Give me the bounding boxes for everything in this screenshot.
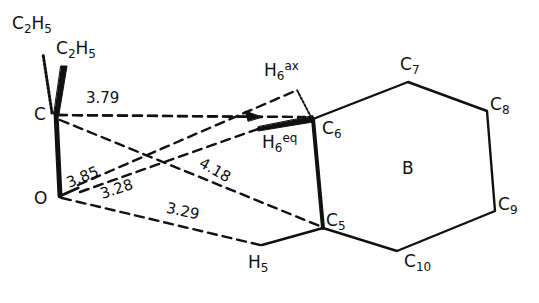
bond-c-o — [56, 113, 60, 196]
label-c9: C9 — [498, 196, 518, 216]
text: H — [262, 132, 275, 152]
text: C — [400, 54, 412, 74]
label-c: C — [34, 106, 46, 123]
label-c5: C5 — [326, 212, 346, 232]
bond-c5-h5 — [262, 228, 323, 245]
label-h5: H5 — [248, 254, 268, 274]
label-ethyl-bold: C2H5 — [56, 40, 96, 60]
text: 5 — [338, 219, 346, 233]
text: 5 — [261, 261, 269, 275]
bond-c6-h6eq-wedge — [258, 116, 313, 131]
text: C — [326, 210, 338, 230]
text: 5 — [44, 22, 52, 36]
ring-label-b: B — [402, 160, 414, 177]
distance-label-3-79: 3.79 — [86, 91, 119, 106]
label-h6ax: H6ax — [264, 60, 299, 82]
dist-line-o-h5 — [62, 198, 260, 245]
label-c8: C8 — [490, 96, 510, 116]
text: C — [56, 38, 68, 58]
text: 7 — [412, 63, 420, 77]
label-c10: C10 — [404, 253, 431, 273]
bond-c6-h6ax-hashed — [297, 90, 311, 117]
text: C — [498, 194, 510, 214]
label-c7: C7 — [400, 56, 420, 76]
text: 2 — [24, 22, 32, 36]
text: 5 — [88, 47, 96, 61]
label-o: O — [34, 190, 47, 207]
text: H — [32, 13, 45, 33]
text: 10 — [416, 260, 431, 274]
text: H — [264, 60, 277, 80]
text: C — [322, 118, 334, 138]
text: C — [490, 94, 502, 114]
text: ax — [284, 59, 298, 73]
label-c6: C6 — [322, 120, 342, 140]
text: 6 — [334, 127, 342, 141]
text: eq — [282, 131, 297, 145]
text: C — [12, 13, 24, 33]
arrowhead — [245, 111, 262, 121]
text: H — [248, 252, 261, 272]
text: C — [404, 251, 416, 271]
dist-line-c-c6 — [58, 115, 305, 117]
label-h6eq: H6eq — [262, 132, 297, 154]
text: 9 — [510, 203, 518, 217]
text: 2 — [68, 47, 76, 61]
bond-c-ethyl-wedge — [54, 66, 67, 114]
text: H — [76, 38, 89, 58]
label-ethyl-hashed: C2H5 — [12, 15, 52, 35]
text: 8 — [502, 103, 510, 117]
